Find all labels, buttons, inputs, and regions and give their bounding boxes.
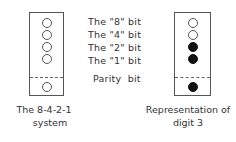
bit-column-8421-system xyxy=(29,12,64,96)
parity-divider xyxy=(30,77,63,78)
bit-4-circle-icon xyxy=(42,30,52,40)
parity-bit-circle-icon xyxy=(42,82,52,92)
label-parity-bit: Parity bit xyxy=(93,73,141,84)
bit-8-circle-icon xyxy=(42,18,52,28)
bit-8-circle-icon xyxy=(188,18,198,28)
caption-right-line2: digit 3 xyxy=(143,117,233,129)
label-4-bit: The "4" bit xyxy=(88,29,141,40)
label-1-bit: The "1" bit xyxy=(88,55,141,66)
bit-column-digit-3 xyxy=(174,12,211,96)
caption-left-line1: The 8-4-2-1 xyxy=(8,104,80,116)
bit-1-filled-circle-icon xyxy=(188,54,198,64)
caption-left-line2: system xyxy=(14,117,86,129)
bit-4-circle-icon xyxy=(188,30,198,40)
parity-bit-filled-circle-icon xyxy=(188,82,198,92)
bit-2-circle-icon xyxy=(42,42,52,52)
bit-1-circle-icon xyxy=(42,54,52,64)
label-2-bit: The "2" bit xyxy=(88,42,141,53)
label-8-bit: The "8" bit xyxy=(88,16,141,27)
bit-2-filled-circle-icon xyxy=(188,42,198,52)
parity-divider xyxy=(175,77,210,78)
caption-right-line1: Representation of xyxy=(143,104,233,116)
